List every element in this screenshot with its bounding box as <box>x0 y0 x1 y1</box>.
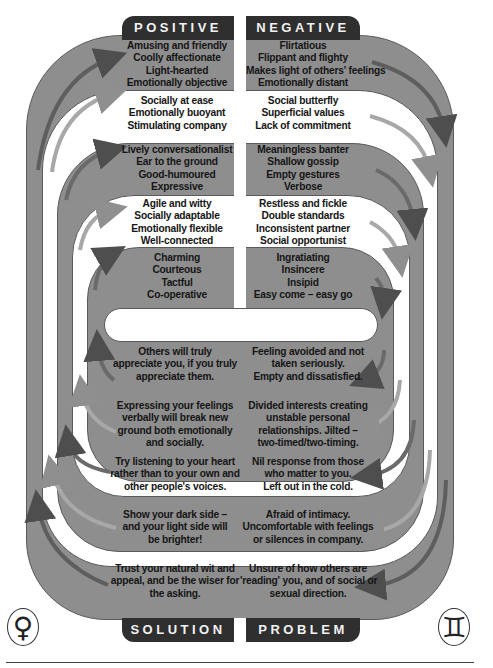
negative-group-2: Social butterflySuperficial valuesLack o… <box>246 95 360 132</box>
positive-group-2: Socially at easeEmotionally buoyantStimu… <box>120 95 234 132</box>
problem-group-5: Unsure of how others are'reading' you, a… <box>240 563 376 600</box>
arrow-down-outer-bottom <box>370 480 446 586</box>
positive-group-4: Agile and wittySocially adaptableEmotion… <box>120 198 234 247</box>
venus-symbol-icon: ♀ <box>7 608 39 646</box>
solution-group-5: Trust your natural wit andappeal, and be… <box>110 563 240 600</box>
solution-group-3: Try listening to your heartrather than t… <box>110 456 240 493</box>
arrow-up-white-mid <box>80 210 112 250</box>
positive-group-1: Amusing and friendlyCoolly affectionateL… <box>120 40 234 89</box>
negative-group-1: FlirtatiousFlippant and flightyMakes lig… <box>246 40 360 89</box>
solution-group-2: Expressing your feelingsverbally will br… <box>110 400 240 449</box>
negative-group-3: Meaningless banterShallow gossipEmpty ge… <box>246 144 360 193</box>
solution-group-4: Show your dark side –and your light side… <box>110 509 240 546</box>
problem-group-2: Divided interests creatingunstable perso… <box>240 400 376 449</box>
arrow-up-white-top <box>52 94 112 172</box>
problem-group-4: Afraid of intimacy.Uncomfortable with fe… <box>240 509 376 546</box>
arrow-down-second-top <box>376 170 414 225</box>
bottom-rule <box>6 662 474 663</box>
positive-group-3: Lively conversationalistEar to the groun… <box>120 144 234 193</box>
positive-group-5: CharmingCourteousTactfulCo-operative <box>120 252 234 301</box>
arrow-down-inner <box>376 278 384 304</box>
arrow-up-outer-bottom <box>38 505 108 585</box>
arrow-down-white-top <box>370 116 430 172</box>
negative-group-4: Restless and fickleDouble standardsIncon… <box>246 198 360 247</box>
problem-group-3: Nil response from thosewho matter to you… <box>240 456 376 493</box>
gemini-symbol-icon: ♊ <box>438 608 470 646</box>
arrow-up-second-lower <box>68 440 110 472</box>
arrow-up-white-bottom <box>52 470 116 528</box>
problem-group-1: Feeling avoided and nottaken seriously.E… <box>240 346 376 383</box>
negative-group-5: IngratiatingInsincereInsipidEasy come – … <box>246 252 360 301</box>
solution-group-1: Others will trulyappreciate you, if you … <box>110 346 240 383</box>
arrow-down-white-mid <box>370 222 400 262</box>
arrow-up-inner <box>95 254 112 290</box>
arrow-up-second-top <box>66 150 112 200</box>
